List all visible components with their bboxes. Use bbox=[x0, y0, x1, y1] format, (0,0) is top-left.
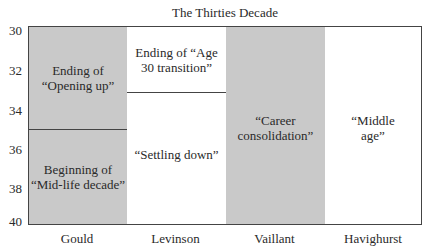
x-label-vaillant: Vaillant bbox=[225, 231, 324, 247]
y-tick-label: 38 bbox=[4, 181, 22, 197]
segment-label-line: “Opening up” bbox=[42, 78, 115, 93]
segment-label-line: “Career bbox=[255, 113, 295, 128]
segment-label-line: consolidation” bbox=[238, 128, 314, 143]
segment-label-line: “Mid-life decade” bbox=[31, 177, 125, 192]
segment-label-line: “Middle bbox=[351, 113, 394, 128]
segment-vaillant-career-consolidation: “Careerconsolidation” bbox=[226, 27, 325, 224]
column-gould: Ending of“Opening up” Beginning of“Mid-l… bbox=[29, 27, 128, 224]
y-tick-label: 32 bbox=[4, 63, 22, 79]
segment-gould-opening-up: Ending of“Opening up” bbox=[29, 27, 127, 130]
segment-gould-mid-life-decade: Beginning of“Mid-life decade” bbox=[29, 130, 127, 224]
x-label-gould: Gould bbox=[28, 231, 126, 247]
y-tick-label: 36 bbox=[4, 142, 22, 158]
column-levinson: Ending of “Age30 transition” “Settling d… bbox=[127, 27, 227, 224]
y-tick-label: 30 bbox=[4, 23, 22, 39]
y-tick-label: 40 bbox=[4, 214, 22, 230]
segment-levinson-settling-down: “Settling down” bbox=[127, 93, 226, 224]
segment-label-line: “Settling down” bbox=[134, 147, 218, 162]
column-havighurst: “Middleage” bbox=[325, 27, 421, 224]
segment-label-line: age” bbox=[361, 128, 385, 143]
y-tick-label: 34 bbox=[4, 103, 22, 119]
x-label-havighurst: Havighurst bbox=[324, 231, 422, 247]
segment-havighurst-middle-age: “Middleage” bbox=[325, 27, 421, 224]
segment-label-line: Ending of “Age bbox=[135, 45, 217, 60]
x-label-levinson: Levinson bbox=[126, 231, 225, 247]
plot-area: Ending of“Opening up” Beginning of“Mid-l… bbox=[28, 26, 422, 225]
segment-levinson-age-30-transition: Ending of “Age30 transition” bbox=[127, 27, 226, 93]
chart-title: The Thirties Decade bbox=[28, 5, 422, 21]
segment-label-line: 30 transition” bbox=[141, 60, 212, 75]
segment-label-line: Ending of bbox=[52, 63, 104, 78]
column-vaillant: “Careerconsolidation” bbox=[226, 27, 326, 224]
segment-label-line: Beginning of bbox=[44, 162, 112, 177]
